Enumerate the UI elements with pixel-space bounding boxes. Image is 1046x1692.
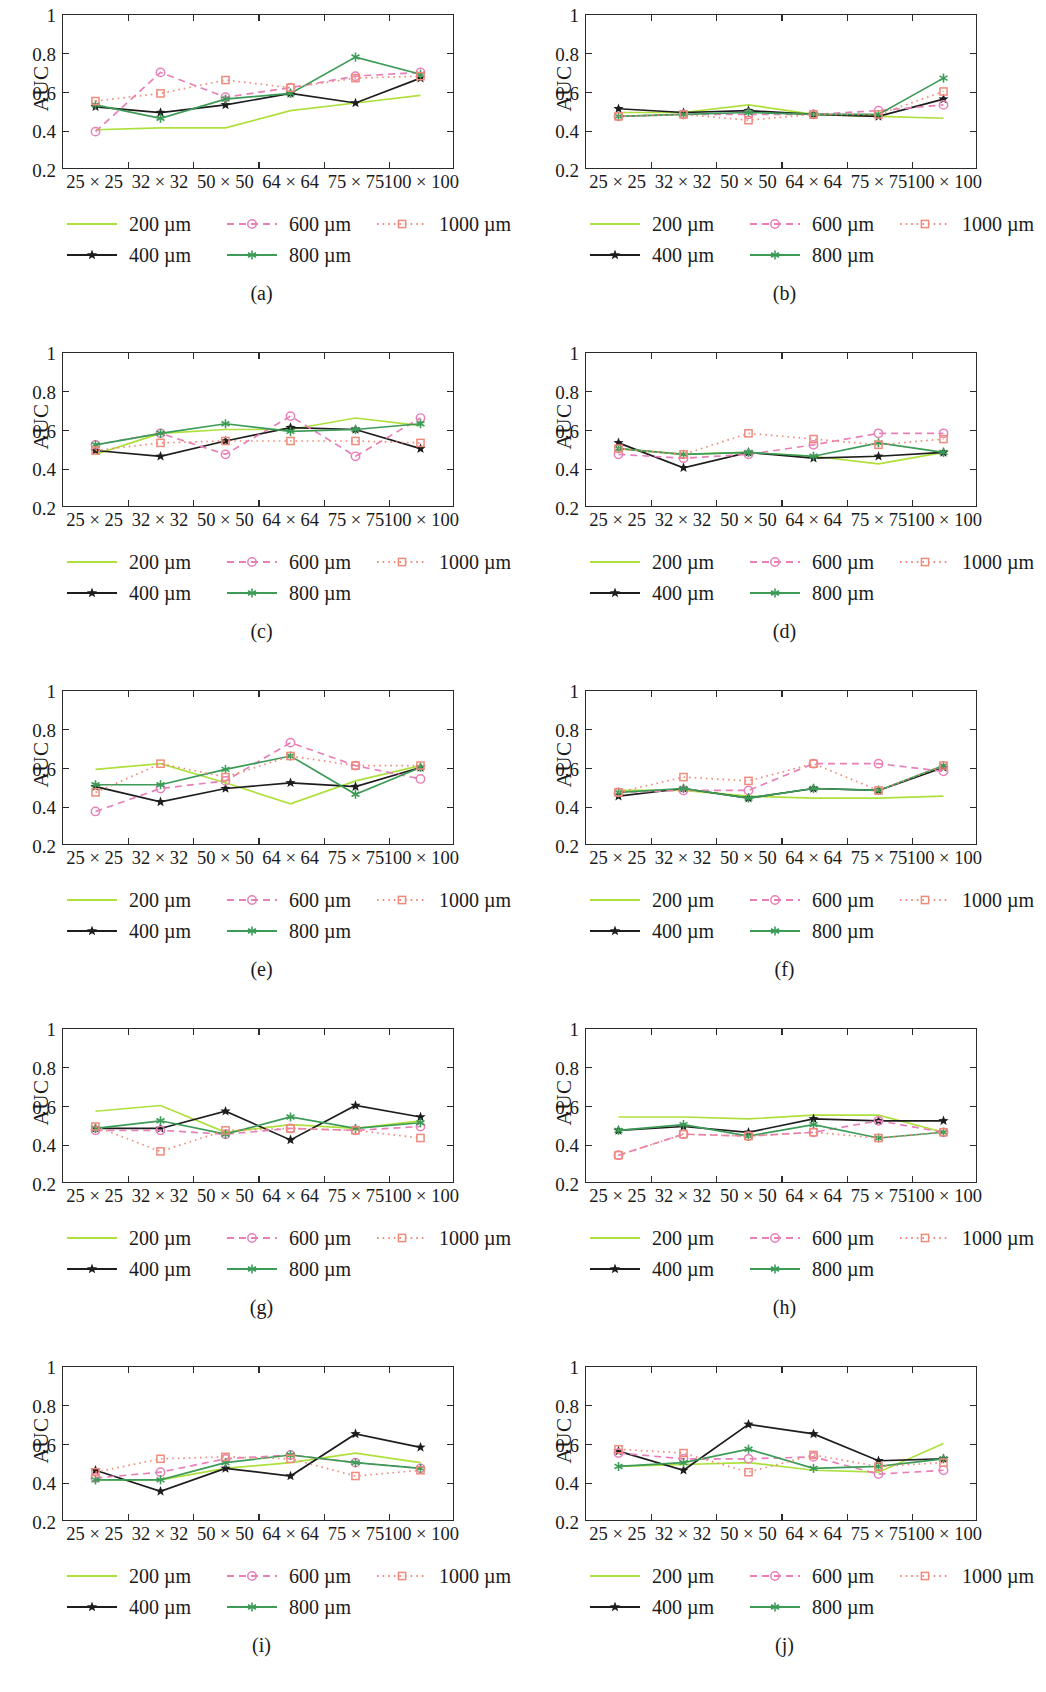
legend-item-200um[interactable]: 200 µm: [571, 209, 749, 239]
legend-item-400um[interactable]: 400 µm: [571, 916, 749, 946]
legend-swatch-200um: [589, 1567, 641, 1585]
legend-item-400um[interactable]: 400 µm: [571, 578, 749, 608]
x-tick-label: 25 × 25: [589, 172, 646, 193]
legend-swatch-1000um: [899, 1567, 951, 1585]
legend-swatch-800um: [226, 1598, 278, 1616]
legend-item-1000um[interactable]: 1000 µm: [899, 1223, 1041, 1253]
legend-item-200um[interactable]: 200 µm: [48, 209, 226, 239]
legend-item-200um[interactable]: 200 µm: [571, 1223, 749, 1253]
legend-item-200um[interactable]: 200 µm: [571, 885, 749, 915]
legend-swatch-800um: [226, 246, 278, 264]
plot-box: 0.20.40.60.81: [62, 1028, 454, 1183]
legend-label: 400 µm: [652, 1596, 714, 1619]
legend-swatch-600um: [226, 1229, 278, 1247]
legend-item-600um[interactable]: 600 µm: [749, 885, 899, 915]
legend-label: 800 µm: [812, 1258, 874, 1281]
y-tick-label: 0.8: [32, 382, 56, 401]
legend-item-800um[interactable]: 800 µm: [226, 240, 376, 270]
legend-item-600um[interactable]: 600 µm: [749, 1223, 899, 1253]
legend-item-1000um[interactable]: 1000 µm: [376, 885, 518, 915]
legend-swatch-600um: [749, 891, 801, 909]
series-400um: [90, 73, 425, 117]
x-tick-label: 32 × 32: [132, 1186, 189, 1207]
y-tick-label: 0.8: [32, 1058, 56, 1077]
legend-label: 400 µm: [652, 244, 714, 267]
legend-item-800um[interactable]: 800 µm: [226, 578, 376, 608]
legend-item-400um[interactable]: 400 µm: [48, 578, 226, 608]
x-tick-label: 32 × 32: [655, 1186, 712, 1207]
x-axis-labels: 25 × 2532 × 3250 × 5064 × 6475 × 75100 ×…: [585, 1524, 977, 1550]
legend-item-800um[interactable]: 800 µm: [749, 240, 899, 270]
x-tick-label: 50 × 50: [197, 1186, 254, 1207]
x-tick-label: 64 × 64: [262, 510, 319, 531]
legend-row: 400 µm800 µm: [571, 1592, 1041, 1622]
legend-label: 200 µm: [652, 1227, 714, 1250]
legend-item-1000um[interactable]: 1000 µm: [376, 209, 518, 239]
legend-item-1000um[interactable]: 1000 µm: [899, 1561, 1041, 1591]
legend-item-400um[interactable]: 400 µm: [48, 1592, 226, 1622]
legend-item-400um[interactable]: 400 µm: [571, 1254, 749, 1284]
chart-panel-f: AUC0.20.40.60.8125 × 2532 × 3250 × 5064 …: [523, 680, 1046, 1018]
y-tick-label: 0.8: [32, 44, 56, 63]
legend-label: 200 µm: [652, 1565, 714, 1588]
legend-item-200um[interactable]: 200 µm: [571, 1561, 749, 1591]
legend-item-800um[interactable]: 800 µm: [749, 1592, 899, 1622]
legend-item-600um[interactable]: 600 µm: [749, 1561, 899, 1591]
legend-item-400um[interactable]: 400 µm: [48, 1254, 226, 1284]
series-200um: [96, 95, 421, 129]
legend-item-800um[interactable]: 800 µm: [749, 1254, 899, 1284]
series-800um: [615, 1445, 948, 1473]
legend-item-1000um[interactable]: 1000 µm: [899, 885, 1041, 915]
legend-item-1000um[interactable]: 1000 µm: [899, 209, 1041, 239]
legend-item-200um[interactable]: 200 µm: [48, 1561, 226, 1591]
legend-item-200um[interactable]: 200 µm: [571, 547, 749, 577]
legend-item-600um[interactable]: 600 µm: [226, 885, 376, 915]
legend-item-600um[interactable]: 600 µm: [226, 209, 376, 239]
legend-item-1000um[interactable]: 1000 µm: [376, 547, 518, 577]
chart-panel-d: AUC0.20.40.60.8125 × 2532 × 3250 × 5064 …: [523, 342, 1046, 680]
y-tick-label: 0.4: [555, 1474, 579, 1493]
y-tick-label: 1: [570, 1358, 580, 1377]
series-1000um: [615, 1129, 947, 1159]
legend-item-1000um[interactable]: 1000 µm: [899, 547, 1041, 577]
legend-item-400um[interactable]: 400 µm: [48, 916, 226, 946]
legend-item-400um[interactable]: 400 µm: [571, 240, 749, 270]
legend-item-400um[interactable]: 400 µm: [48, 240, 226, 270]
chart-panel-e: AUC0.20.40.60.8125 × 2532 × 3250 × 5064 …: [0, 680, 523, 1018]
y-tick-label: 0.6: [32, 83, 56, 102]
legend-row: 400 µm800 µm: [571, 1254, 1041, 1284]
plot-area: AUC0.20.40.60.8125 × 2532 × 3250 × 5064 …: [0, 680, 523, 870]
legend-item-800um[interactable]: 800 µm: [226, 916, 376, 946]
y-tick-label: 0.4: [555, 122, 579, 141]
legend-row: 200 µm600 µm1000 µm: [48, 885, 518, 915]
x-tick-label: 50 × 50: [720, 1186, 777, 1207]
legend-item-200um[interactable]: 200 µm: [48, 885, 226, 915]
legend-item-1000um[interactable]: 1000 µm: [376, 1561, 518, 1591]
y-tick-label: 0.4: [32, 798, 56, 817]
plot-box: 0.20.40.60.81: [585, 352, 977, 507]
chart-legend: 200 µm600 µm1000 µm400 µm800 µm: [571, 209, 1041, 271]
legend-label: 1000 µm: [439, 889, 511, 912]
x-tick-label: 64 × 64: [785, 510, 842, 531]
legend-item-200um[interactable]: 200 µm: [48, 1223, 226, 1253]
legend-item-1000um[interactable]: 1000 µm: [376, 1223, 518, 1253]
legend-item-800um[interactable]: 800 µm: [226, 1254, 376, 1284]
x-tick-label: 100 × 100: [907, 1524, 982, 1545]
legend-item-800um[interactable]: 800 µm: [749, 916, 899, 946]
legend-swatch-600um: [226, 553, 278, 571]
legend-item-600um[interactable]: 600 µm: [749, 547, 899, 577]
legend-label: 600 µm: [812, 1227, 874, 1250]
legend-item-600um[interactable]: 600 µm: [226, 547, 376, 577]
legend-item-600um[interactable]: 600 µm: [749, 209, 899, 239]
x-tick-label: 100 × 100: [907, 172, 982, 193]
plot-box: 0.20.40.60.81: [62, 14, 454, 169]
x-tick-label: 75 × 75: [328, 172, 385, 193]
legend-item-400um[interactable]: 400 µm: [571, 1592, 749, 1622]
x-axis-labels: 25 × 2532 × 3250 × 5064 × 6475 × 75100 ×…: [62, 510, 454, 536]
x-tick-label: 64 × 64: [262, 172, 319, 193]
legend-item-800um[interactable]: 800 µm: [749, 578, 899, 608]
legend-item-600um[interactable]: 600 µm: [226, 1223, 376, 1253]
legend-item-800um[interactable]: 800 µm: [226, 1592, 376, 1622]
legend-item-600um[interactable]: 600 µm: [226, 1561, 376, 1591]
legend-item-200um[interactable]: 200 µm: [48, 547, 226, 577]
